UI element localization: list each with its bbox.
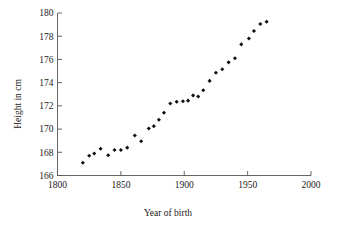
axes-group — [58, 13, 312, 176]
data-point — [152, 124, 156, 128]
data-point — [157, 118, 161, 122]
data-point — [92, 151, 96, 155]
data-point — [175, 100, 179, 104]
x-tick-label-1950: 1950 — [238, 180, 257, 190]
data-point — [214, 71, 218, 75]
data-point — [186, 99, 190, 103]
data-point — [252, 29, 256, 33]
scatter-chart-figure: 1800185019001950200016616817017217417617… — [0, 0, 338, 225]
ticks-group — [58, 13, 312, 176]
y-tick-label-168: 168 — [39, 148, 54, 158]
y-tick-label-174: 174 — [39, 78, 54, 88]
data-point — [227, 60, 231, 64]
x-tick-label-1800: 1800 — [48, 180, 67, 190]
data-point — [233, 56, 237, 60]
data-point — [87, 154, 91, 158]
data-point — [168, 101, 172, 105]
data-point — [181, 99, 185, 103]
data-point — [239, 42, 243, 46]
x-axis-title: Year of birth — [144, 208, 192, 218]
y-tick-label-172: 172 — [39, 101, 54, 111]
data-point — [99, 147, 103, 151]
x-tick-label-1900: 1900 — [175, 180, 194, 190]
y-tick-label-178: 178 — [39, 32, 54, 42]
data-point — [191, 93, 195, 97]
data-point — [81, 161, 85, 165]
y-tick-label-166: 166 — [39, 171, 54, 181]
data-point — [220, 67, 224, 71]
data-point — [147, 126, 151, 130]
data-point — [201, 88, 205, 92]
y-tick-label-170: 170 — [39, 124, 54, 134]
x-tick-label-2000: 2000 — [302, 180, 321, 190]
data-point — [265, 20, 269, 24]
y-axis-title: Height in cm — [13, 79, 23, 129]
data-point — [208, 79, 212, 83]
data-point — [133, 133, 137, 137]
data-point — [106, 153, 110, 157]
data-point — [112, 148, 116, 152]
data-point — [247, 36, 251, 40]
data-point — [125, 146, 129, 150]
data-point — [196, 95, 200, 99]
y-tick-label-180: 180 — [39, 8, 54, 18]
x-tick-label-1850: 1850 — [111, 180, 130, 190]
data-point — [162, 111, 166, 115]
data-point — [258, 22, 262, 26]
y-tick-label-176: 176 — [39, 55, 54, 65]
data-point — [139, 139, 143, 143]
chart-canvas: 1800185019001950200016616817017217417617… — [0, 0, 338, 225]
data-point — [119, 148, 123, 152]
data-points-group — [81, 20, 269, 165]
